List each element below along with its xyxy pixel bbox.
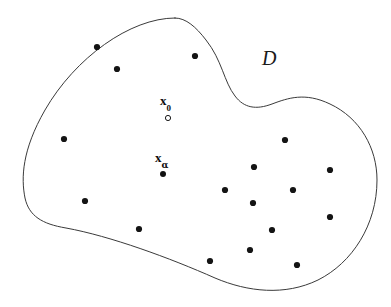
- sample-point: [251, 164, 257, 170]
- sample-point: [94, 44, 100, 50]
- point-x-alpha-marker: [160, 171, 166, 177]
- point-label-x-alpha: xα: [155, 151, 168, 168]
- sample-point: [290, 187, 296, 193]
- sample-point: [192, 53, 198, 59]
- sample-point: [222, 187, 228, 193]
- sample-point: [294, 262, 300, 268]
- sample-point: [61, 136, 67, 142]
- region-label-D: D: [262, 48, 276, 68]
- domain-figure-svg: [0, 0, 391, 307]
- figure-canvas: D x0 xα: [0, 0, 391, 307]
- sample-point: [82, 198, 88, 204]
- point-label-x-alpha-base: x: [155, 150, 162, 165]
- sample-point: [282, 137, 288, 143]
- sample-point: [269, 227, 275, 233]
- point-x0-marker: [165, 115, 170, 120]
- point-label-x0-subscript: 0: [167, 103, 172, 113]
- sample-point: [247, 247, 253, 253]
- sample-point: [207, 258, 213, 264]
- sample-point: [327, 214, 333, 220]
- sample-point: [114, 66, 120, 72]
- figure-background: [0, 0, 391, 307]
- point-label-x0-base: x: [160, 93, 167, 108]
- sample-point: [250, 200, 256, 206]
- sample-point: [327, 167, 333, 173]
- sample-point: [136, 226, 142, 232]
- point-label-x0: x0: [160, 94, 171, 111]
- point-label-x-alpha-subscript: α: [162, 160, 169, 170]
